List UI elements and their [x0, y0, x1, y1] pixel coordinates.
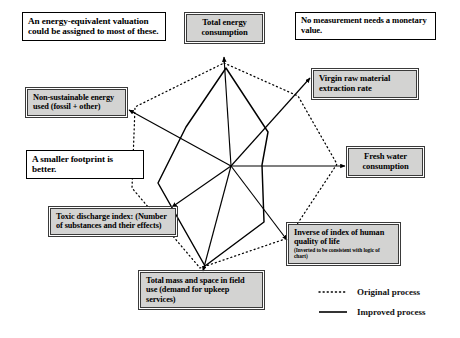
legend-label-improved: Improved process	[357, 307, 425, 317]
axis-label-inverse-subnote: (Inverted to be consistent with logic of…	[294, 247, 393, 260]
legend-swatch-dotted	[318, 287, 348, 297]
legend-item-original: Original process	[318, 282, 425, 302]
axis-label-total-energy-consumption: Total energy consumption	[186, 14, 263, 42]
note-energy-equivalent: An energy-equivalent valuation could be …	[22, 12, 166, 41]
note-no-measurement: No measurement needs a monetary value.	[295, 12, 436, 40]
figure-canvas: An energy-equivalent valuation could be …	[0, 0, 460, 338]
axis-label-fresh-water-consumption: Fresh water consumption	[348, 148, 423, 176]
note-smaller-footprint: A smaller footprint is better.	[26, 150, 144, 179]
axis-inverse-quality	[231, 166, 287, 240]
axis-label-toxic-discharge-index: Toxic discharge index: (Number of substa…	[50, 208, 176, 235]
chart-legend: Original process Improved process	[318, 282, 425, 322]
axis-label-total-mass-and-space: Total mass and space in field use (deman…	[140, 272, 263, 308]
axis-label-virgin-raw-material: Virgin raw material extraction rate	[313, 70, 417, 98]
axis-label-inverse-human-quality: Inverse of index of human quality of lif…	[288, 224, 399, 264]
axis-virgin-raw	[231, 78, 310, 166]
axis-label-non-sustainable-energy: Non-sustainable energy used (fossil + ot…	[27, 89, 126, 116]
legend-swatch-solid	[318, 307, 348, 317]
legend-item-improved: Improved process	[318, 302, 425, 322]
axis-label-inverse-main: Inverse of index of human quality of lif…	[294, 228, 384, 246]
axis-total-mass	[203, 166, 231, 271]
legend-label-original: Original process	[357, 287, 420, 297]
series-improved-process	[158, 68, 268, 266]
